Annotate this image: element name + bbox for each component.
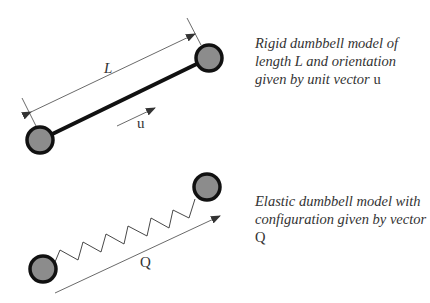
rigid-dumbbell: L u (22, 18, 222, 153)
elastic-caption-text: Elastic dumbbell model with configuratio… (255, 193, 426, 227)
unit-vector-label: u (137, 115, 145, 131)
rigid-rod (40, 58, 209, 140)
bead-right (196, 45, 222, 71)
elastic-caption-symbol: Q (255, 229, 265, 245)
unit-vector-arrow (117, 108, 155, 126)
elastic-dumbbell: Q (30, 174, 220, 293)
rigid-caption-symbol: u (373, 71, 380, 87)
length-dimension-arrow (31, 34, 195, 112)
length-extension-line-right (187, 18, 201, 45)
bead-left (27, 127, 53, 153)
bead-bottom-left (30, 256, 56, 282)
length-label: L (103, 60, 112, 76)
elastic-caption: Elastic dumbbell model with configuratio… (255, 192, 430, 246)
configuration-vector-label: Q (140, 254, 151, 270)
spring (55, 199, 195, 262)
bead-bottom-right (194, 174, 220, 200)
rigid-caption: Rigid dumbbell model of length L and ori… (255, 34, 430, 88)
length-extension-line-left (22, 98, 36, 126)
